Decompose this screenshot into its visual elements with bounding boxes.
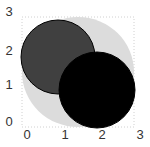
y-tick: 3	[5, 4, 12, 19]
y-tick: 2	[5, 43, 12, 58]
chart: 3 2 1 0 0 1 2 3	[0, 0, 150, 147]
black-circle	[59, 52, 135, 128]
y-tick: 1	[5, 77, 12, 92]
x-tick: 0	[23, 127, 30, 142]
x-tick: 1	[61, 127, 68, 142]
x-tick: 2	[98, 127, 105, 142]
x-tick: 3	[136, 127, 143, 142]
y-tick-labels: 3 2 1 0	[5, 4, 12, 129]
x-tick-labels: 0 1 2 3	[23, 127, 143, 142]
y-tick: 0	[5, 114, 12, 129]
